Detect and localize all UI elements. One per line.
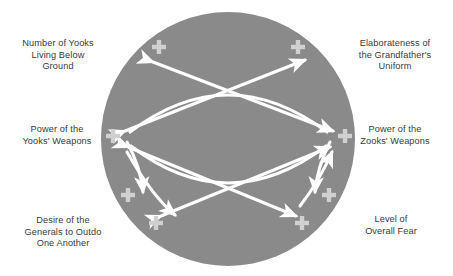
node-label-yooks-weapons: Power of the Yooks' Weapons [4,124,110,147]
node-label-grandfather-uniform: Elaborateness of the Grandfather's Unifo… [341,38,449,73]
causal-loop-diagram: Number of Yooks Living Below Ground Elab… [0,0,453,276]
node-label-zooks-weapons: Power of the Zooks' Weapons [341,124,449,147]
node-label-yooks-below-ground: Number of Yooks Living Below Ground [6,38,110,73]
node-label-generals-desire: Desire of the Generals to Outdo One Anot… [8,215,118,250]
background-circle [101,12,355,266]
node-label-overall-fear: Level of Overall Fear [341,214,441,237]
